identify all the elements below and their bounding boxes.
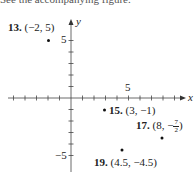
point-label-15: 15. (3, −1) [109,105,156,116]
point-19 [121,149,124,152]
point-17 [161,137,164,140]
point-label-13: 13. (−2, 5) [8,22,55,33]
x-tick-label-5: 5 [125,82,131,93]
point-label-17: 17. (8, −72) [136,119,183,134]
y-tick-label-neg5: −5 [55,150,67,161]
y-tick-label-5: 5 [61,34,67,45]
point-15 [103,109,106,112]
y-axis-label: y [76,16,81,27]
x-axis-label: x [188,92,193,103]
point-13 [47,39,50,42]
x-axis-arrow-icon [180,96,186,101]
y-axis-arrow-icon [69,19,74,25]
point-label-19: 19. (4.5, −4.5) [94,157,157,168]
